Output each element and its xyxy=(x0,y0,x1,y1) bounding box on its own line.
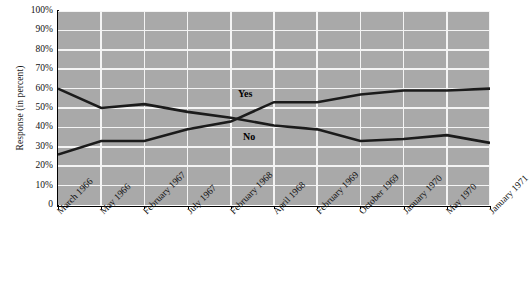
yes-label: Yes xyxy=(238,88,252,99)
x-tick-mark xyxy=(317,206,318,209)
y-tick-label: 40% xyxy=(13,122,53,132)
x-tick-mark xyxy=(404,206,405,209)
x-tick-mark xyxy=(447,206,448,209)
y-tick-label: 80% xyxy=(13,45,53,55)
y-tick-label: 90% xyxy=(13,25,53,35)
y-tick-label: 70% xyxy=(13,64,53,74)
x-tick-mark xyxy=(58,206,59,209)
y-tick-label: 60% xyxy=(13,84,53,94)
x-tick-mark xyxy=(360,206,361,209)
x-tick-mark xyxy=(274,206,275,209)
series-line-yes xyxy=(58,89,490,155)
series-line-no xyxy=(58,89,490,143)
x-tick-mark xyxy=(101,206,102,209)
y-tick-label: 30% xyxy=(13,142,53,152)
x-axis-tick-labels: March 1966May 1966February 1967July 1967… xyxy=(0,209,505,284)
x-tick-mark xyxy=(490,206,491,209)
no-label: No xyxy=(243,131,255,142)
x-tick-label: January 1971 xyxy=(487,173,530,216)
x-tick-mark xyxy=(231,206,232,209)
y-tick-label: 100% xyxy=(13,6,53,16)
x-tick-mark xyxy=(144,206,145,209)
y-tick-label: 20% xyxy=(13,161,53,171)
x-tick-mark xyxy=(188,206,189,209)
y-tick-label: 10% xyxy=(13,181,53,191)
y-tick-label: 50% xyxy=(13,103,53,113)
